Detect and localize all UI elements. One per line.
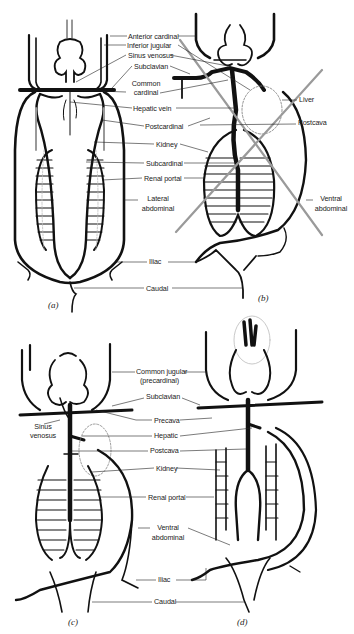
label-lateral-abdominal-2: abdominal [140, 205, 176, 213]
label-ventral-abdominal-bottom-2: abdominal [150, 534, 186, 542]
panel-d-drawing [192, 316, 322, 612]
label-ventral-abdominal-2: abdominal [313, 205, 349, 213]
caption-panel-c: (c) [68, 617, 78, 627]
label-postcava-bottom: Postcava [150, 447, 179, 455]
label-hepatic: Hepatic [154, 432, 178, 440]
label-common-jugular-2: (precardinal) [140, 377, 179, 385]
label-renal-portal: Renal portal [144, 175, 182, 183]
label-common-cardinal-2: cardinal [128, 89, 164, 97]
panel-a-drawing [15, 20, 124, 312]
label-postcava: Postcava [298, 119, 327, 127]
label-subcardinal: Subcardinal [146, 160, 183, 168]
label-sinus-venosus: Sinus venosus [128, 52, 173, 60]
label-sinus-venosus-1: Sinus [28, 423, 58, 431]
label-ventral-abdominal-bottom-1: Ventral [150, 524, 186, 532]
caption-panel-b: (b) [258, 293, 269, 303]
caption-panel-d: (d) [237, 617, 248, 627]
caption-panel-a: (a) [48, 300, 59, 310]
panel-b-drawing [174, 14, 322, 298]
label-caudal: Caudal [146, 285, 168, 293]
label-precava: Precava [154, 417, 180, 425]
label-common-jugular-1: Common jugular [136, 368, 187, 376]
label-ventral-abdominal-1: Ventral [313, 195, 349, 203]
label-inferior-jugular: Inferior jugular [127, 42, 171, 50]
label-liver: Liver [299, 96, 314, 104]
label-lateral-abdominal-1: Lateral [140, 195, 176, 203]
label-caudal-bottom: Caudal [154, 598, 176, 606]
label-anterior-cardinal: Anterior cardinal [128, 33, 179, 41]
panel-c-drawing [16, 344, 138, 612]
label-iliac-bottom: Iliac [158, 576, 170, 584]
label-renal-portal-bottom: Renal portal [148, 494, 186, 502]
label-iliac: Iliac [149, 258, 161, 266]
label-common-cardinal-1: Common [128, 80, 164, 88]
label-subclavian-bottom: Subclavian [146, 393, 180, 401]
label-kidney: Kidney [156, 141, 177, 149]
label-kidney-bottom: Kidney [156, 465, 177, 473]
label-subclavian: Subclavian [134, 63, 168, 71]
label-hepatic-vein: Hepatic vein [133, 105, 171, 113]
label-postcardinal: Postcardinal [145, 123, 183, 131]
label-sinus-venosus-2: venosus [28, 432, 58, 440]
